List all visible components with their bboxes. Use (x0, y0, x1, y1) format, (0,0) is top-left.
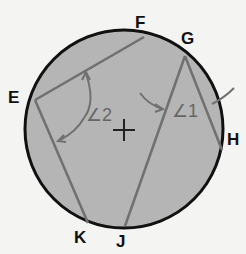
inscribed-angles-diagram: ∠2 ∠1 F G E H K J (0, 0, 246, 254)
point-g-label: G (181, 29, 194, 48)
angle-1-label: ∠1 (172, 101, 198, 121)
point-e-label: E (8, 88, 19, 107)
point-f-label: F (135, 13, 145, 32)
point-j-label: J (116, 232, 125, 251)
point-h-label: H (227, 130, 239, 149)
point-k-label: K (74, 228, 87, 247)
circle-figure: ∠2 ∠1 F G E H K J (0, 0, 246, 254)
angle-2-label: ∠2 (86, 105, 112, 125)
